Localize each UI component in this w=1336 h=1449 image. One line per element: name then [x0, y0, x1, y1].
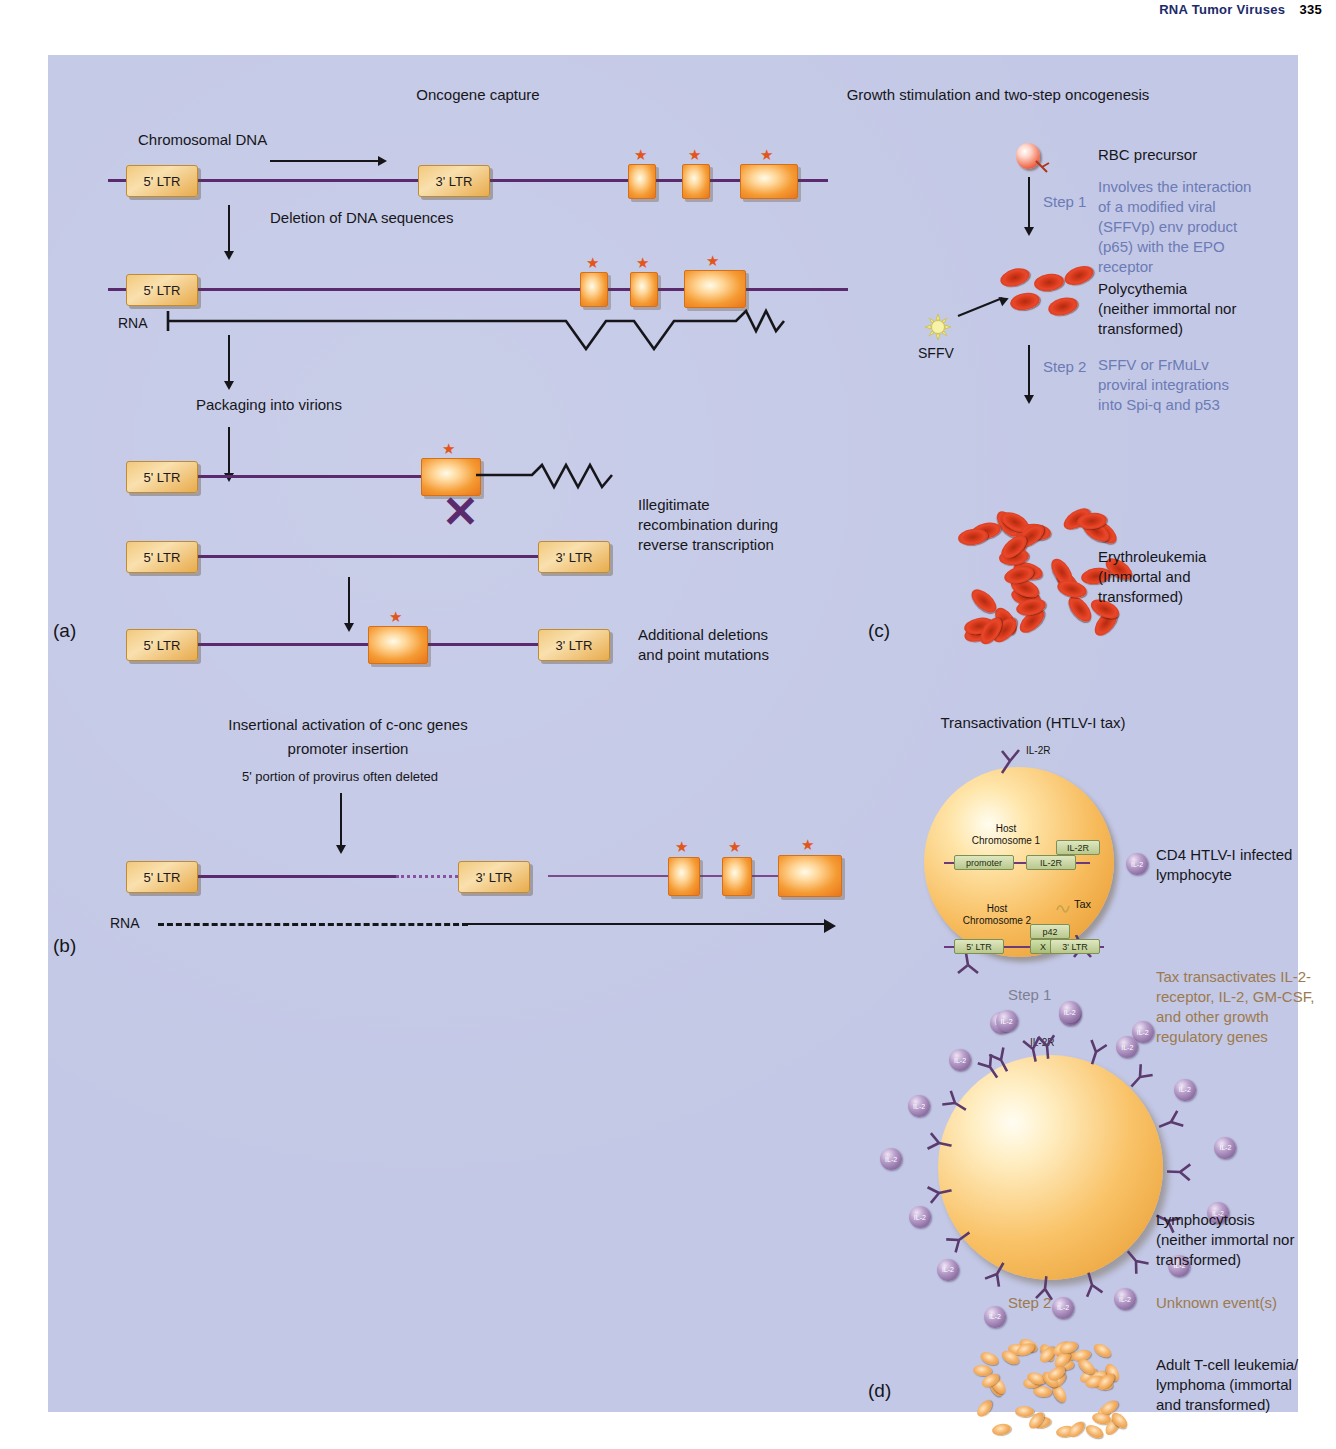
- host-chromosome-2-label: Host Chromosome 2: [954, 903, 1040, 927]
- p42-product-box: p42: [1030, 924, 1070, 939]
- rna-transcript-solid-b: [466, 923, 826, 925]
- step1-label-d: Step 1: [1008, 985, 1051, 1005]
- oncogene-exon-1-row1: [628, 164, 656, 199]
- il2r-gene-label: IL-2R: [1026, 855, 1076, 870]
- provirus-ltr3-d: 3' LTR: [1050, 939, 1100, 954]
- step-arrow-a2-head: [224, 381, 234, 390]
- dna-line-row5: [146, 643, 566, 646]
- provirus-deleted-segment-b: [396, 875, 458, 878]
- panel-d-title: Transactivation (HTLV-I tax): [868, 713, 1198, 733]
- il2r-receptor-icon: [954, 953, 980, 981]
- ltr5-row3: 5' LTR: [126, 461, 198, 493]
- step1-arrow-c: [1028, 177, 1030, 229]
- panel-d-letter: (d): [868, 1380, 891, 1402]
- step-arrow-a2: [228, 335, 230, 383]
- il2-molecule: IL-2: [880, 1148, 902, 1170]
- il2-molecule: IL-2: [1052, 1297, 1074, 1319]
- il2-molecule: IL-2: [1126, 853, 1148, 875]
- sffv-arrow-head: [998, 294, 1010, 307]
- star-icon: ★: [636, 255, 649, 270]
- step2-label-d: Step 2: [1008, 1293, 1051, 1313]
- atl-cell-mass: [968, 1335, 1138, 1440]
- atl-cell: [1092, 1341, 1114, 1360]
- step2-arrow-c: [1028, 345, 1030, 397]
- dna-line-row4: [146, 555, 566, 558]
- panel-c-title: Growth stimulation and two-step oncogene…: [808, 85, 1188, 105]
- ltr5-b: 5' LTR: [126, 861, 198, 893]
- direction-arrow-line: [270, 160, 380, 162]
- deletion-label: Deletion of DNA sequences: [270, 208, 453, 228]
- ltr3-row5: 3' LTR: [538, 629, 610, 661]
- step1-arrow-c-head: [1024, 227, 1034, 236]
- lymphocytosis-label: Lymphocytosis (neither immortal nor tran…: [1156, 1210, 1336, 1270]
- il2-molecule: IL-2: [1114, 1288, 1136, 1310]
- recombination-x-icon: ✕: [442, 490, 479, 534]
- cd4-lymphocyte-label: CD4 HTLV-I infected lymphocyte: [1156, 845, 1336, 885]
- star-icon: ★: [760, 147, 773, 162]
- conc-exon-1: [668, 857, 700, 896]
- chromosomal-dna-label: Chromosomal DNA: [138, 130, 267, 150]
- rna-transcript-arrow-b: [824, 919, 836, 933]
- provirus-ltr5-d: 5' LTR: [954, 939, 1004, 954]
- promoter-gene-label: promoter: [954, 855, 1014, 870]
- star-icon: ★: [586, 255, 599, 270]
- star-icon: ★: [389, 609, 402, 624]
- rbc-cell: [1046, 295, 1079, 319]
- il2r-receptor-icon: [998, 745, 1024, 775]
- atl-cell: [991, 1423, 1012, 1437]
- rbc-cell: [1062, 262, 1096, 288]
- polycythemia-label: Polycythemia (neither immortal nor trans…: [1098, 279, 1313, 339]
- il2-molecule-cloud: IL-2IL-2IL-2IL-2IL-2IL-2IL-2IL-2IL-2IL-2…: [888, 1010, 1228, 1340]
- step1-label-c: Step 1: [1043, 192, 1086, 212]
- step2-arrow-c-head: [1024, 395, 1034, 404]
- il2-molecule: IL-2: [1116, 1036, 1138, 1058]
- step-arrow-a1: [228, 205, 230, 253]
- rbc-cell: [957, 528, 989, 548]
- rna-transcript-dashed-b: [158, 923, 468, 926]
- step1-note-c: Involves the interaction of a modified v…: [1098, 177, 1313, 277]
- conc-exon-2: [722, 857, 752, 896]
- panel-a-letter: (a): [53, 620, 76, 642]
- star-icon: ★: [688, 147, 701, 162]
- atl-cell: [974, 1398, 995, 1420]
- oncogene-exon-3-row1: [740, 164, 798, 199]
- provirus-deleted-note: 5' portion of provirus often deleted: [140, 767, 540, 787]
- host-chromosome-1-label: Host Chromosome 1: [966, 823, 1046, 847]
- panel-b-title-2: promoter insertion: [148, 739, 548, 759]
- panel-c-letter: (c): [868, 620, 890, 642]
- ltr3-row1: 3' LTR: [418, 165, 490, 197]
- atl-label: Adult T-cell leukemia/ lymphoma (immorta…: [1156, 1355, 1336, 1415]
- tax-label: Tax: [1074, 898, 1091, 910]
- insertion-arrow-b-head: [336, 845, 346, 854]
- step-arrow-a3: [228, 427, 230, 475]
- oncogene-exon-1-row2: [580, 272, 608, 307]
- ltr3-row4: 3' LTR: [538, 541, 610, 573]
- rna-label-a: RNA: [118, 313, 148, 333]
- oncogene-exon-3-row2: [684, 270, 746, 308]
- illegitimate-label: Illegitimate recombination during revers…: [638, 495, 858, 555]
- panel-b-title-1: Insertional activation of c-onc genes: [148, 715, 548, 735]
- insertion-arrow-b: [340, 793, 342, 847]
- step-arrow-a1-head: [224, 251, 234, 260]
- star-icon: ★: [634, 147, 647, 162]
- packaging-label: Packaging into virions: [196, 395, 342, 415]
- step-arrow-a4: [348, 577, 350, 625]
- atl-cell: [1065, 1419, 1086, 1440]
- oncogene-exon-2-row1: [682, 164, 710, 199]
- il2-molecule: IL-2: [949, 1049, 971, 1071]
- il2-molecule: IL-2: [1059, 1001, 1081, 1023]
- panel-a-title: Oncogene capture: [328, 85, 628, 105]
- sffv-virion-icon: [924, 313, 952, 341]
- rbc-cell: [1009, 291, 1041, 313]
- sffv-arrow-line: [958, 297, 1003, 317]
- page-number: 335: [1299, 2, 1322, 17]
- direction-arrow-head: [378, 156, 387, 166]
- step2-label-c: Step 2: [1043, 357, 1086, 377]
- star-icon: ★: [675, 839, 688, 854]
- il2r-product-box: IL-2R: [1056, 840, 1100, 855]
- unknown-events-label: Unknown event(s): [1156, 1293, 1277, 1313]
- conc-exon-3: [778, 855, 842, 897]
- rbc-cell: [1033, 272, 1065, 293]
- rna-tail-zigzag: [476, 461, 632, 495]
- page-header: RNA Tumor Viruses335: [1159, 2, 1322, 17]
